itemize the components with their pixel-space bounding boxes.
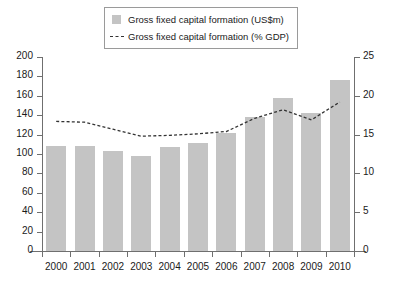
left-axis-tick-label: 80 [22, 166, 33, 177]
chart-container: Gross fixed capital formation (US$m) Gro… [0, 0, 405, 283]
tick-mark [355, 173, 360, 174]
right-axis-tick-label: 0 [363, 244, 369, 255]
right-axis-tick-label: 5 [363, 205, 369, 216]
x-axis-tick-label: 2008 [269, 261, 297, 273]
x-axis-tick-mark [42, 252, 43, 257]
right-axis-tick-label: 25 [363, 50, 374, 61]
x-axis-tick-mark [70, 252, 71, 257]
x-axis-tick-label: 2010 [326, 261, 354, 273]
left-axis-tick-label: 160 [16, 89, 33, 100]
left-axis-tick-label: 60 [22, 186, 33, 197]
x-axis-tick-label: 2007 [241, 261, 269, 273]
legend-item-line: Gross fixed capital formation (% GDP) [112, 29, 289, 43]
right-axis-tick-label: 20 [363, 89, 374, 100]
line-series [42, 57, 354, 251]
legend-label-line: Gross fixed capital formation (% GDP) [128, 31, 289, 42]
left-axis-tick-label: 120 [16, 128, 33, 139]
left-axis-tick-label: 20 [22, 225, 33, 236]
plot-area [42, 57, 354, 251]
dashed-line-icon [112, 32, 121, 41]
right-axis-tick-label: 15 [363, 128, 374, 139]
x-axis-tick-mark [99, 252, 100, 257]
x-axis-tick-mark [326, 252, 327, 257]
x-axis-tick-label: 2009 [297, 261, 325, 273]
x-axis-tick-label: 2002 [99, 261, 127, 273]
left-axis-tick-label: 140 [16, 108, 33, 119]
x-axis-tick-mark [241, 252, 242, 257]
left-axis-tick-label: 0 [27, 244, 33, 255]
tick-mark [355, 96, 360, 97]
dashed-trend-line [56, 102, 340, 136]
x-axis-tick-label: 2004 [155, 261, 183, 273]
left-axis-tick-label: 200 [16, 50, 33, 61]
x-axis-tick-label: 2003 [127, 261, 155, 273]
right-axis-tick-label: 10 [363, 166, 374, 177]
x-axis-tick-mark [184, 252, 185, 257]
tick-mark [355, 212, 360, 213]
x-axis-tick-mark [354, 252, 355, 257]
x-axis-tick-mark [297, 252, 298, 257]
x-axis-tick-label: 2005 [184, 261, 212, 273]
x-axis-tick-mark [269, 252, 270, 257]
tick-mark [355, 57, 360, 58]
x-axis-tick-label: 2000 [42, 261, 70, 273]
tick-mark [355, 251, 360, 252]
left-axis-tick-label: 100 [16, 147, 33, 158]
x-axis-tick-mark [127, 252, 128, 257]
x-axis-tick-mark [212, 252, 213, 257]
left-axis-tick-label: 40 [22, 205, 33, 216]
tick-mark [355, 135, 360, 136]
right-axis-line [354, 57, 355, 252]
legend-label-bar: Gross fixed capital formation (US$m) [128, 14, 284, 25]
left-axis-tick-label: 180 [16, 69, 33, 80]
legend-item-bar: Gross fixed capital formation (US$m) [112, 12, 289, 26]
x-axis-tick-label: 2001 [70, 261, 98, 273]
chart-legend: Gross fixed capital formation (US$m) Gro… [104, 7, 298, 49]
x-axis-tick-mark [155, 252, 156, 257]
x-axis-tick-label: 2006 [212, 261, 240, 273]
x-axis-line [30, 251, 366, 252]
bar-swatch-icon [112, 15, 121, 24]
